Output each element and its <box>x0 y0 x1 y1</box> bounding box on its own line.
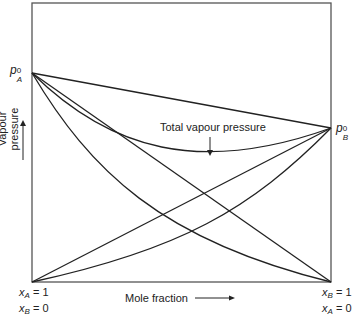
pB0-symbol: p <box>336 121 343 135</box>
annotation-arrowhead-icon <box>207 150 213 156</box>
value: = 1 <box>336 286 352 298</box>
value: = 1 <box>33 286 49 298</box>
pA0-label: p0A <box>10 64 25 76</box>
right-bottom-line2: xA = 0 <box>322 302 352 315</box>
sub-B: B <box>25 307 30 315</box>
right-bottom-label: xB = 1 xA = 0 <box>322 286 352 315</box>
sub-B: B <box>328 291 333 300</box>
sub-A: A <box>328 307 333 315</box>
x-axis-label: Mole fraction <box>125 292 188 304</box>
right-bottom-line1: xB = 1 <box>322 286 352 302</box>
total-vapour-pressure-curve <box>32 73 331 152</box>
pB0-subscript: B <box>343 132 348 144</box>
total-vapour-pressure-annotation: Total vapour pressure <box>160 121 266 133</box>
plot-frame <box>32 3 331 282</box>
left-bottom-line1: xA = 1 <box>19 286 49 302</box>
left-bottom-line2: xB = 0 <box>19 302 49 315</box>
x-axis-arrowhead-icon <box>229 296 235 301</box>
pA0-subscript: A <box>17 74 22 86</box>
sub-A: A <box>25 291 30 300</box>
y-axis-label: Vapour pressure <box>0 94 20 164</box>
pB0-label: p0B <box>336 122 351 134</box>
ideal-partial-pressure-B-line <box>32 128 331 282</box>
pA0-symbol: p <box>10 63 17 77</box>
ideal-partial-pressure-A-line <box>32 73 331 282</box>
vapour-pressure-diagram <box>0 0 357 315</box>
left-bottom-label: xA = 1 xB = 0 <box>19 286 49 315</box>
ideal-total-pressure-line <box>32 73 331 128</box>
value: = 0 <box>33 302 49 314</box>
value: = 0 <box>336 302 352 314</box>
y-axis-arrowhead-icon <box>20 120 26 126</box>
